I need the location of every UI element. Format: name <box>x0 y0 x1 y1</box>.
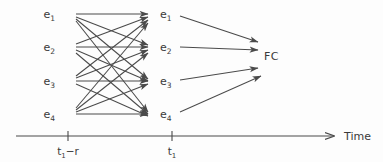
input-layer-labels: e1 e2 e3 e4 <box>43 8 55 123</box>
edge-in4-out1 <box>76 23 148 108</box>
edge-out4-fc <box>180 76 261 112</box>
tick-label-t1: t1 <box>168 145 177 160</box>
edge-out3-fc <box>180 68 258 80</box>
node-label-input-e4: e4 <box>43 108 55 123</box>
time-axis: t1−r t1 Time <box>16 130 371 160</box>
edge-in3-out4 <box>76 84 148 116</box>
node-label-hidden-e3: e3 <box>160 75 172 90</box>
edges-input-to-hidden <box>76 14 148 116</box>
tick-label-t1-minus-r: t1−r <box>57 145 79 160</box>
diagram-canvas: e1 e2 e3 e4 e1 e2 e3 e4 FC t1−r t1 Time <box>0 0 383 162</box>
node-label-hidden-e4: e4 <box>160 108 172 123</box>
edge-out1-fc <box>180 16 258 42</box>
hidden-layer-labels: e1 e2 e3 e4 <box>160 8 172 123</box>
node-label-input-e1: e1 <box>43 8 55 23</box>
node-label-hidden-e2: e2 <box>160 41 172 56</box>
network-diagram-svg: e1 e2 e3 e4 e1 e2 e3 e4 FC t1−r t1 Time <box>0 0 383 162</box>
node-label-hidden-e1: e1 <box>160 8 172 23</box>
node-label-input-e2: e2 <box>43 41 55 56</box>
axis-label-time: Time <box>343 130 371 143</box>
edge-out2-fc <box>180 47 258 50</box>
edges-hidden-to-fc <box>180 16 261 112</box>
node-label-input-e3: e3 <box>43 75 55 90</box>
node-label-fc: FC <box>264 50 279 63</box>
